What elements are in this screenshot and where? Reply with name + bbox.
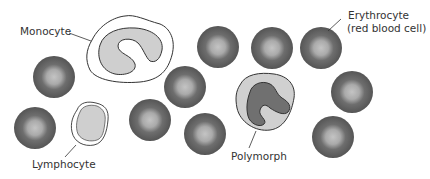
monocyte-cell [69, 16, 173, 83]
erythrocyte-cell [164, 66, 206, 108]
erythrocyte-sublabel: (red blood cell) [347, 22, 426, 35]
lymphocyte-label: Lymphocyte [32, 158, 96, 171]
polymorph-cell [236, 73, 294, 148]
erythrocyte-pointer [328, 19, 341, 31]
erythrocyte-cell [197, 26, 239, 68]
erythrocyte-cell [33, 56, 75, 98]
erythrocyte-cell [312, 116, 354, 158]
erythrocyte-cell [184, 113, 226, 155]
erythrocyte-cell [251, 27, 293, 69]
erythrocyte-cell [14, 107, 56, 149]
blood-cell-diagram: Monocyte Erythrocyte (red blood cell) Ly… [0, 0, 430, 179]
erythrocyte-cell [129, 99, 171, 141]
erythrocyte-cell [300, 27, 342, 69]
erythrocyte-label: Erythrocyte [348, 9, 409, 22]
lymphocyte-cell [65, 102, 108, 157]
polymorph-label: Polymorph [231, 150, 287, 163]
erythrocyte-cell [331, 71, 373, 113]
erythrocytes [14, 26, 373, 158]
monocyte-label: Monocyte [20, 25, 71, 38]
